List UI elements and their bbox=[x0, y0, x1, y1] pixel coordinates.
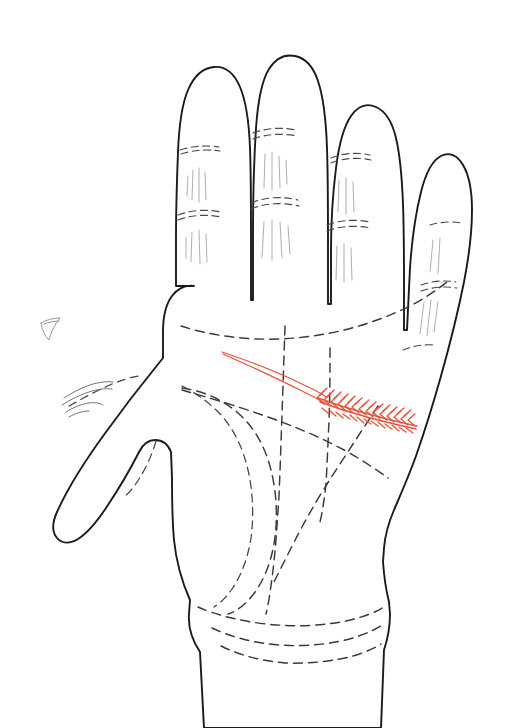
thumb-nail-group bbox=[41, 318, 60, 340]
palm-diagram-figure: Palm diagram with marked line left hand … bbox=[0, 0, 515, 728]
hand-outline-group bbox=[53, 56, 472, 728]
hand-outline-path bbox=[53, 56, 472, 728]
palm-diagram-canvas bbox=[0, 0, 515, 728]
